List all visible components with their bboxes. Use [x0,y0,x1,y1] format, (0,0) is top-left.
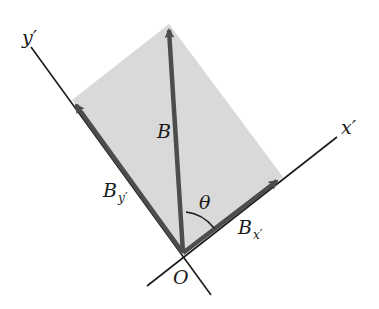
component-By-label: By′ [103,181,127,200]
vector-B-label: B [157,122,171,141]
origin-label: O [173,268,189,287]
y-prime-label: y′ [22,28,37,47]
Bx-subscript: x′ [253,228,263,242]
diagram-canvas [0,0,379,309]
vector-diagram: y′ x′ B By′ Bx′ θ O [0,0,379,309]
Bx-base: B [238,216,252,238]
By-base: B [103,179,117,201]
theta-label: θ [199,193,210,212]
By-subscript: y′ [118,191,128,205]
component-Bx-label: Bx′ [238,218,262,237]
x-prime-label: x′ [341,118,356,137]
